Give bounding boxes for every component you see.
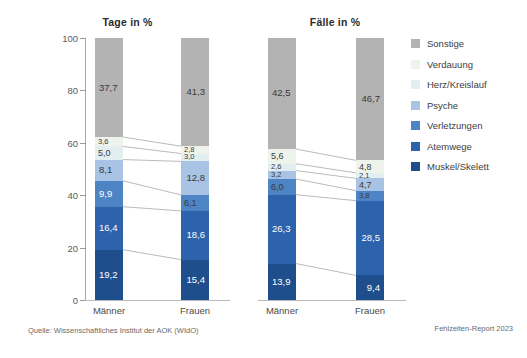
segment-value-label: 16,4 <box>99 223 118 233</box>
segment-value-label: 9,9 <box>99 189 112 199</box>
bar-segment: 16,4 <box>95 207 123 250</box>
bar-segment: 41,3 <box>181 38 209 146</box>
legend-item: Sonstige <box>411 38 523 49</box>
legend-label: Psyche <box>427 100 458 111</box>
segment-value-label: 42,5 <box>272 89 291 99</box>
figure-root: 020406080100 Tage in % Fälle in % 19,216… <box>0 0 527 358</box>
segment-value-label: 2,6 <box>271 162 281 171</box>
segment-value-label: 5,6 <box>271 151 284 161</box>
legend-label: Verletzungen <box>427 120 482 131</box>
segment-value-label: 4,7 <box>359 180 372 190</box>
legend-label: Muskel/Skelett <box>427 161 489 172</box>
x-axis-label: Frauen <box>150 305 240 316</box>
bar-segment: 9,4 <box>356 275 384 300</box>
segment-value-label: 41,3 <box>187 87 206 97</box>
legend-swatch <box>411 142 420 151</box>
segment-value-label: 8,1 <box>99 165 112 175</box>
legend: SonstigeVerdauungHerz/KreislaufPsycheVer… <box>411 38 523 182</box>
stacked-bar: 19,216,49,98,137,7 <box>95 38 123 300</box>
legend-item: Verdauung <box>411 59 523 70</box>
bar-segment: 28,5 <box>356 201 384 276</box>
segment-value-label: 2,1 <box>359 171 369 180</box>
source-note: Quelle: Wissenschaftliches Institut der … <box>28 326 198 335</box>
bar-segment: 42,5 <box>268 38 296 149</box>
segment-value-label: 6,0 <box>271 182 284 192</box>
segment-value-label: 26,3 <box>272 224 291 234</box>
legend-item: Verletzungen <box>411 120 523 131</box>
x-axis-label: Männer <box>237 305 327 316</box>
chart-title-tage: Tage in % <box>0 16 255 28</box>
segment-value-label: 15,4 <box>187 275 206 285</box>
legend-label: Herz/Kreislauf <box>427 79 487 90</box>
chart-title-faelle: Fälle in % <box>240 16 430 28</box>
segment-value-label: 12,8 <box>187 173 206 183</box>
segment-value-label: 2,8 <box>184 145 194 154</box>
report-note: Fehlzeiten-Report 2023 <box>435 324 513 333</box>
segment-value-label: 13,9 <box>272 277 291 287</box>
x-axis-label: Frauen <box>325 305 415 316</box>
bar-segment: 9,9 <box>95 181 123 207</box>
bar-segment: 8,1 <box>95 160 123 181</box>
legend-item: Herz/Kreislauf <box>411 79 523 90</box>
legend-swatch <box>411 101 420 110</box>
legend-swatch <box>411 80 420 89</box>
bar-segment: 18,6 <box>181 211 209 260</box>
legend-swatch <box>411 121 420 130</box>
x-axis-label: Männer <box>64 305 154 316</box>
stacked-bar: 15,418,612,841,3 <box>181 38 209 300</box>
legend-item: Muskel/Skelett <box>411 161 523 172</box>
legend-label: Verdauung <box>427 59 473 70</box>
bar-segment: 12,8 <box>181 161 209 195</box>
segment-value-label: 37,7 <box>99 83 118 93</box>
bar-segment: 26,3 <box>268 195 296 264</box>
bar-segment: 15,4 <box>181 260 209 300</box>
segment-value-label: 3,6 <box>98 137 108 146</box>
segment-value-label: 4,8 <box>359 162 372 172</box>
segment-value-label: 46,7 <box>362 94 381 104</box>
segment-value-label: 6,1 <box>184 198 197 208</box>
bar-segment: 13,9 <box>268 264 296 300</box>
legend-item: Psyche <box>411 100 523 111</box>
segment-value-label: 18,6 <box>187 231 206 241</box>
segment-value-label: 3,8 <box>359 191 369 200</box>
bar-segment: 37,7 <box>95 38 123 137</box>
bar-segment: 19,2 <box>95 250 123 300</box>
legend-item: Atemwege <box>411 141 523 152</box>
bar-segment: 46,7 <box>356 38 384 160</box>
segment-value-label: 9,4 <box>367 283 380 293</box>
legend-swatch <box>411 60 420 69</box>
legend-swatch <box>411 39 420 48</box>
segment-value-label: 5,0 <box>98 148 111 158</box>
segment-value-label: 28,5 <box>362 233 381 243</box>
legend-label: Sonstige <box>427 38 464 49</box>
legend-swatch <box>411 162 420 171</box>
segment-value-label: 19,2 <box>99 270 118 280</box>
legend-label: Atemwege <box>427 141 472 152</box>
